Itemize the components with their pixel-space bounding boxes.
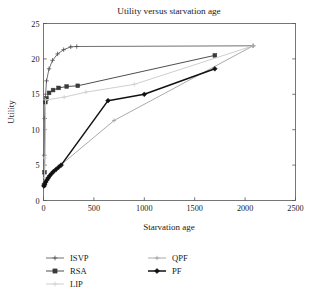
data-point-marker (57, 86, 61, 90)
x-tick-label: 1500 (187, 204, 203, 213)
data-point-marker (47, 91, 51, 95)
y-axis-label: Utility (6, 100, 16, 124)
data-point-marker (51, 88, 55, 92)
legend-label: RSA (70, 266, 88, 276)
x-tick-label: 2500 (287, 204, 303, 213)
data-point-marker (65, 85, 69, 89)
legend-label: PF (172, 266, 182, 276)
legend-label: LIP (70, 279, 83, 289)
chart-title: Utility versus starvation age (117, 6, 220, 16)
x-tick-label: 1000 (136, 204, 152, 213)
y-tick-label: 20 (31, 55, 39, 64)
x-tick-label: 2000 (237, 204, 253, 213)
x-axis-label: Starvation age (143, 222, 195, 232)
utility-vs-starvation-age-chart: Utility versus starvation age 0500100015… (0, 0, 321, 298)
legend-label: QPF (172, 253, 188, 263)
y-tick-label: 0 (35, 197, 39, 206)
legend-label: ISVP (70, 253, 89, 263)
data-point-marker (76, 84, 80, 88)
y-tick-label: 5 (35, 161, 39, 170)
figure-container: Utility versus starvation age 0500100015… (0, 0, 321, 298)
chart-background (0, 0, 321, 298)
y-tick-label: 25 (31, 20, 39, 29)
data-point-marker (213, 53, 217, 57)
x-tick-label: 500 (88, 204, 100, 213)
y-tick-label: 15 (31, 90, 39, 99)
data-point-marker (53, 269, 57, 273)
x-tick-label: 0 (41, 204, 45, 213)
y-tick-label: 10 (31, 126, 39, 135)
